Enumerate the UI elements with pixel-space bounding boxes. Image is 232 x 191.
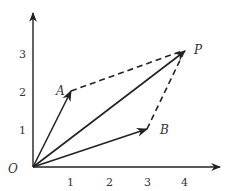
dashed-AP	[71, 51, 182, 91]
x-tick-1: 1	[67, 176, 74, 189]
point-label-P: P	[193, 43, 203, 57]
y-tick-3: 3	[19, 48, 26, 61]
vector-OB	[33, 129, 147, 167]
y-tick-2: 2	[19, 86, 26, 99]
y-tick-1: 1	[19, 124, 26, 137]
vector-diagram: O 1 2 3 4 1 2 3 A B P	[0, 0, 232, 191]
point-label-A: A	[55, 84, 65, 98]
point-label-B: B	[159, 123, 169, 137]
x-tick-2: 2	[106, 176, 113, 189]
x-tick-4: 4	[181, 176, 188, 189]
vector-OP	[33, 51, 185, 167]
origin-label: O	[8, 162, 18, 176]
dashed-BP	[147, 54, 183, 129]
x-tick-3: 3	[144, 176, 151, 189]
